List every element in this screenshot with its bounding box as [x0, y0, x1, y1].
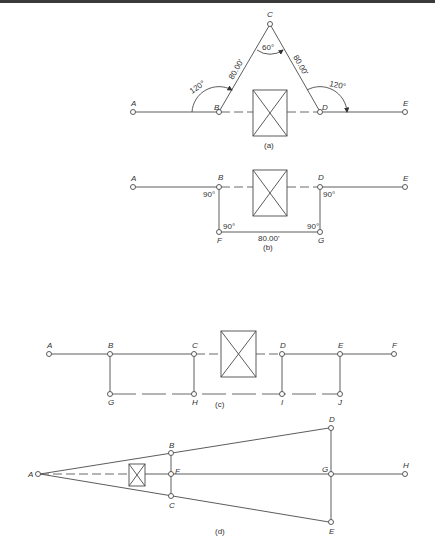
point-label-h: H — [192, 398, 198, 407]
angle-label-f: 90° — [223, 222, 235, 231]
survey-obstacle-diagrams: A B C D E 120° 60° 120° 80.00' 80.00' (a… — [0, 0, 435, 549]
obstacle-box — [221, 331, 256, 377]
panel-d: A B F C D G E H (d) — [27, 415, 409, 536]
point-label-f: F — [175, 467, 181, 476]
point-label-g: G — [322, 465, 328, 474]
point-label-c: C — [267, 10, 273, 19]
point-label-b: B — [214, 103, 220, 112]
point-label-f: F — [217, 236, 223, 245]
panel-c: A B C D E F G H I J (c) — [46, 331, 398, 409]
point-label-j: J — [337, 398, 343, 407]
point-label-d: D — [318, 173, 324, 182]
point-label-e: E — [403, 99, 409, 108]
point-label-b: B — [218, 173, 224, 182]
obstacle-box — [253, 170, 287, 216]
point-label-a: A — [27, 470, 33, 479]
angle-label-d: 90° — [323, 190, 335, 199]
point-label-a: A — [130, 174, 136, 183]
point-label-e: E — [329, 527, 335, 536]
angle-label-b: 90° — [203, 190, 215, 199]
panel-a: A B C D E 120° 60° 120° 80.00' 80.00' (a… — [130, 10, 409, 150]
distance-label-cd: 80.00' — [291, 54, 310, 78]
distance-label-fg: 80.00' — [258, 234, 280, 243]
point-label-b: B — [169, 441, 175, 450]
point-label-d: D — [280, 341, 286, 350]
point-label-d: D — [329, 415, 335, 424]
distance-label-bc: 80.00' — [227, 57, 246, 81]
obstacle-box — [253, 90, 287, 136]
point-label-i: I — [281, 398, 284, 407]
caption-d: (d) — [215, 527, 225, 536]
point-label-h: H — [403, 461, 409, 470]
point-label-c: C — [192, 341, 198, 350]
angle-label-b: 120° — [188, 79, 207, 96]
caption-a: (a) — [264, 141, 274, 150]
point-label-e: E — [338, 341, 344, 350]
point-label-e: E — [403, 174, 409, 183]
point-label-d: D — [322, 103, 328, 112]
point-label-b: B — [108, 341, 114, 350]
point-label-a: A — [46, 341, 52, 350]
caption-c: (c) — [215, 400, 225, 409]
obstacle-box — [129, 464, 145, 486]
panel-b: A B D E F G 90° 90° 90° 90° 80.00' (b) — [130, 170, 409, 252]
caption-b: (b) — [263, 243, 273, 252]
point-label-g: G — [108, 398, 114, 407]
point-label-a: A — [130, 99, 136, 108]
angle-label-g: 90° — [307, 222, 319, 231]
point-label-c: C — [169, 501, 175, 510]
angle-label-c: 60° — [262, 43, 274, 52]
point-label-g: G — [318, 236, 324, 245]
point-label-f: F — [392, 341, 398, 350]
